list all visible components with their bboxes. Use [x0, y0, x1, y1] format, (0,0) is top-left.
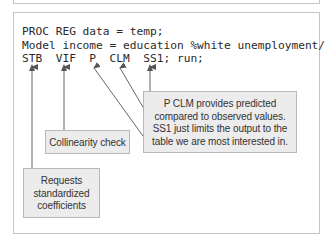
note-line: Requests [24, 175, 99, 188]
note-line: SS1 just limits the output to the [144, 123, 296, 136]
standardized-coefficients-note: Requests standardized coefficients [23, 168, 100, 218]
predicted-values-note: P CLM provides predicted compared to obs… [143, 91, 297, 153]
note-line: P CLM provides predicted [144, 98, 296, 111]
note-line: standardized [24, 188, 99, 201]
note-line: table we are most interested in. [144, 136, 296, 149]
note-line: compared to observed values. [144, 111, 296, 124]
collinearity-note: Collinearity check [45, 130, 130, 154]
note-line: Collinearity check [46, 137, 129, 150]
note-line: coefficients [24, 200, 99, 213]
